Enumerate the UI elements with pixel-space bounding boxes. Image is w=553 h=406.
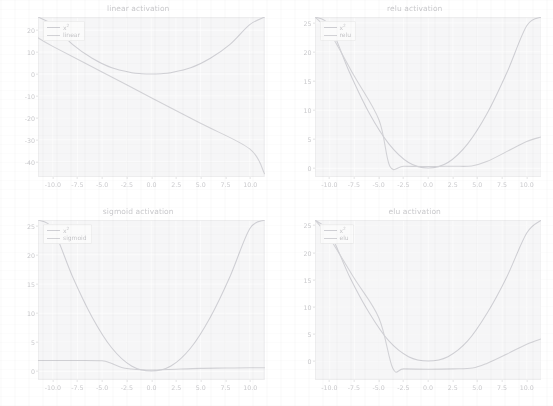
y-axis-tick-label: 10 [303,107,311,114]
x-axis-tick-mark [102,380,103,382]
y-axis-tick-label: 25 [303,19,311,26]
y-axis-tick-mark [313,279,315,280]
y-axis-tick-mark [313,252,315,253]
y-axis-tick-label: 10 [303,303,311,310]
legend-label: x2 [340,24,346,31]
x-axis-tick-label: -5.0 [372,181,384,188]
y-axis-tick-mark [36,225,38,226]
y-axis-tick-mark [36,255,38,256]
subplot-title: relu activation [277,4,553,13]
y-axis-tick-mark [313,225,315,226]
x-axis-tick-label: 10.0 [520,384,534,391]
y-axis-tick-mark [36,161,38,162]
y-axis-tick-mark [313,22,315,23]
x-axis-tick-label: -10.0 [45,384,61,391]
plot-area-linear: 20100-10-20-30-40-10.0-7.5-5.0-2.50.02.5… [38,17,265,177]
y-axis-tick-mark [313,168,315,169]
x-axis-tick-mark [225,380,226,382]
y-axis-tick-mark [36,284,38,285]
chart-legend: x2elu [320,224,354,244]
y-axis-tick-label: 10 [27,49,35,56]
legend-label: linear [63,32,80,38]
y-axis-tick-label: -30 [25,136,35,143]
legend-label: relu [340,32,352,38]
subplot-title: elu activation [277,207,553,216]
matplotlib-figure: linear activation 20100-10-20-30-40-10.0… [0,0,553,406]
y-axis-tick-label: -40 [25,158,35,165]
x-axis-tick-label: -10.0 [321,384,337,391]
x-axis-tick-label: 7.5 [497,181,507,188]
x-axis-tick-mark [378,177,379,179]
y-axis-tick-label: -20 [25,114,35,121]
x-axis-tick-mark [526,380,527,382]
legend-line-swatch [324,27,337,28]
x-axis-tick-mark [329,380,330,382]
x-axis-tick-mark [477,380,478,382]
x-axis-tick-label: -2.5 [397,384,409,391]
legend-entry: x2 [47,24,80,31]
x-axis-tick-label: 2.5 [171,384,181,391]
x-axis-tick-label: 5.0 [196,384,206,391]
x-axis-tick-mark [176,380,177,382]
y-axis-tick-label: 20 [27,251,35,258]
y-axis-tick-mark [36,52,38,53]
x-axis-tick-label: -5.0 [96,384,108,391]
legend-entry: x2 [324,227,349,234]
legend-label: x2 [63,24,69,31]
x-axis-tick-label: 2.5 [448,181,458,188]
x-axis-tick-mark [378,380,379,382]
y-axis-tick-label: 15 [27,281,35,288]
x-axis-tick-label: 10.0 [243,384,257,391]
legend-line-swatch [47,35,60,36]
x-axis-tick-mark [77,380,78,382]
x-axis-tick-label: -10.0 [45,181,61,188]
x-axis-tick-mark [52,177,53,179]
y-axis-tick-mark [313,139,315,140]
x-axis-tick-mark [151,380,152,382]
y-axis-tick-label: 20 [303,48,311,55]
x-axis-tick-label: 2.5 [171,181,181,188]
x-axis-tick-label: 7.5 [497,384,507,391]
legend-entry: relu [324,32,352,38]
x-axis-tick-label: 2.5 [448,384,458,391]
chart-legend: x2relu [320,21,357,41]
legend-entry: x2 [324,24,352,31]
y-axis-tick-mark [313,361,315,362]
x-axis-tick-mark [201,380,202,382]
y-axis-tick-label: 25 [27,222,35,229]
legend-line-swatch [324,35,337,36]
y-axis-tick-mark [313,81,315,82]
y-axis-tick-label: 0 [307,165,311,172]
legend-line-swatch [47,238,60,239]
legend-line-swatch [47,27,60,28]
y-axis-tick-mark [36,371,38,372]
legend-label: x2 [340,227,346,234]
x-axis-tick-mark [250,177,251,179]
legend-line-swatch [47,230,60,231]
plot-area-relu: 2520151050-10.0-7.5-5.0-2.50.02.55.07.51… [315,17,542,177]
x-axis-tick-mark [225,177,226,179]
x-axis-tick-label: 5.0 [196,181,206,188]
y-axis-tick-label: 15 [303,78,311,85]
x-axis-tick-label: -7.5 [348,384,360,391]
subplot-sigmoid-activation: sigmoid activation 2520151050-10.0-7.5-5… [0,203,277,406]
y-axis-tick-mark [36,342,38,343]
x-axis-tick-mark [126,177,127,179]
x-axis-tick-mark [452,380,453,382]
y-axis-tick-label: 0 [307,358,311,365]
legend-label: x2 [63,227,69,234]
y-axis-tick-mark [36,30,38,31]
x-axis-tick-mark [354,177,355,179]
x-axis-tick-label: -2.5 [397,181,409,188]
x-axis-tick-mark [452,177,453,179]
x-axis-tick-mark [428,177,429,179]
y-axis-tick-label: -10 [25,92,35,99]
subplot-title: sigmoid activation [0,207,277,216]
y-axis-tick-label: 0 [31,368,35,375]
y-axis-tick-label: 15 [303,276,311,283]
x-axis-tick-mark [126,380,127,382]
x-axis-tick-label: -5.0 [372,384,384,391]
y-axis-tick-mark [36,313,38,314]
legend-label: elu [340,235,349,241]
x-axis-tick-mark [77,177,78,179]
